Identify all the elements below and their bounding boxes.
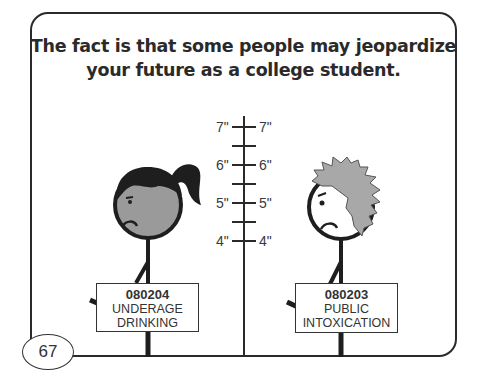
height-ruler [232, 116, 256, 357]
mugshot-sign-public-intoxication: 080203 PUBLIC INTOXICATION [295, 283, 398, 333]
charge-line-2: DRINKING [97, 316, 198, 330]
charge-line-2: INTOXICATION [296, 316, 397, 330]
charge-line-1: PUBLIC [296, 302, 397, 316]
ruler-label-7-left: 7" [216, 120, 229, 134]
booking-number: 080203 [296, 288, 397, 302]
charge-line-1: UNDERAGE [97, 302, 198, 316]
ruler-label-6-left: 6" [216, 158, 229, 172]
ruler-label-4-left: 4" [216, 234, 229, 248]
ruler-label-7-right: 7" [259, 120, 272, 134]
ruler-label-4-right: 4" [259, 234, 272, 248]
ruler-label-5-right: 5" [259, 196, 272, 210]
booking-number: 080204 [97, 288, 198, 302]
mugshot-sign-underage-drinking: 080204 UNDERAGE DRINKING [96, 283, 199, 332]
page-number-badge: 67 [22, 334, 74, 370]
ruler-label-5-left: 5" [216, 196, 229, 210]
ruler-label-6-right: 6" [259, 158, 272, 172]
mugshot-illustration [0, 0, 482, 382]
